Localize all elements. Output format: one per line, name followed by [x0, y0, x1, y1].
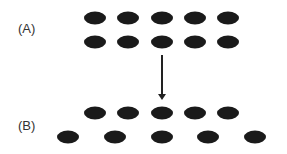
panel-b-ellipse [244, 131, 266, 144]
panel-a-ellipse [217, 12, 239, 25]
panel-a-ellipse [84, 12, 106, 25]
panel-a-ellipse [184, 12, 206, 25]
panel-a-ellipse [217, 36, 239, 49]
panel-b-ellipse [197, 131, 219, 144]
panel-b-ellipse [217, 107, 239, 120]
panel-b-ellipse [151, 131, 173, 144]
panel-b-ellipse [184, 107, 206, 120]
panel-b-ellipse [57, 131, 79, 144]
panel-a-ellipse [84, 36, 106, 49]
panel-b-ellipse [151, 107, 173, 120]
arrow-down-icon [158, 94, 166, 100]
panel-a-ellipse [184, 36, 206, 49]
label-b: (B) [18, 118, 35, 133]
panel-a-ellipse [117, 12, 139, 25]
panel-a-ellipse [151, 12, 173, 25]
arrow-shaft [161, 55, 163, 96]
panel-b-ellipse [104, 131, 126, 144]
panel-b-ellipse [84, 107, 106, 120]
panel-a-ellipse [151, 36, 173, 49]
label-a: (A) [18, 21, 35, 36]
panel-a-ellipse [117, 36, 139, 49]
panel-b-ellipse [117, 107, 139, 120]
